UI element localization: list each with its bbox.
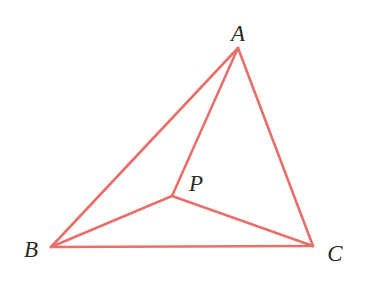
vertex-label-b: B xyxy=(24,238,38,261)
cevian-BP xyxy=(51,196,172,247)
vertex-label-p: P xyxy=(189,172,203,195)
side-AB xyxy=(51,48,238,247)
segment-layer xyxy=(51,48,313,247)
side-CA xyxy=(238,48,313,246)
cevian-CP xyxy=(172,196,313,246)
vertex-label-c: C xyxy=(327,242,342,265)
cevian-AP xyxy=(172,48,238,196)
geometry-figure: A B C P xyxy=(0,0,369,282)
triangle-diagram-canvas xyxy=(0,0,369,282)
side-BC xyxy=(51,246,313,247)
vertex-label-a: A xyxy=(231,22,245,45)
